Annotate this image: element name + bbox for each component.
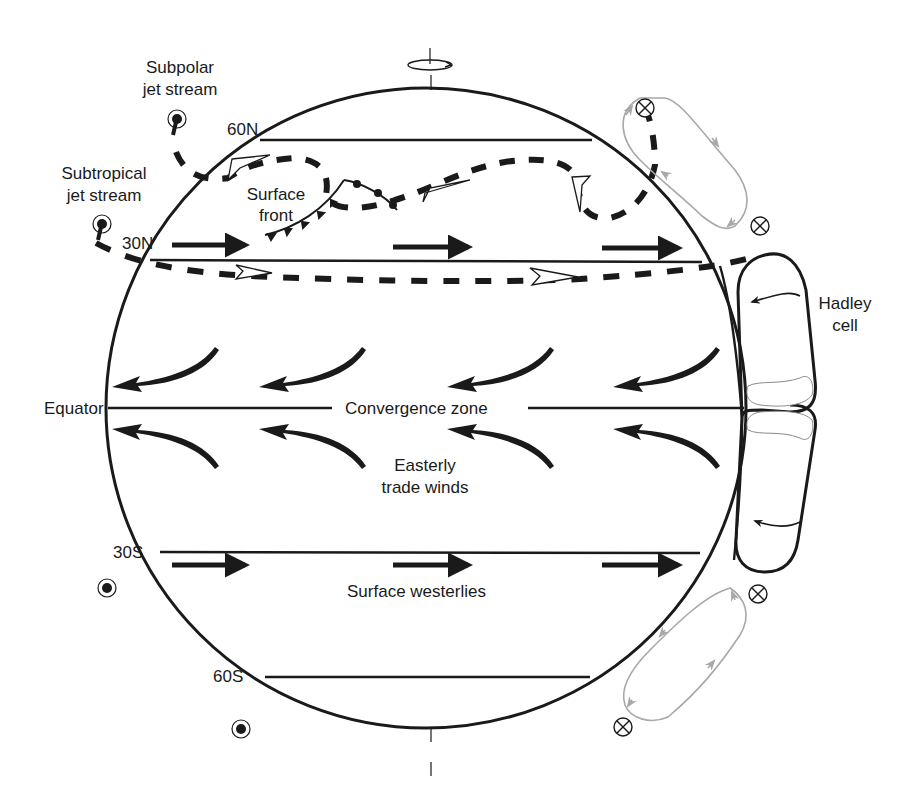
label-easterly-trade-winds-line2: trade winds: [365, 478, 485, 498]
into-page-icon-north-30: [751, 217, 769, 235]
ferrel-cell-north: [623, 98, 747, 228]
into-page-icon-south-60: [614, 718, 632, 736]
ferrel-cell-south: [624, 588, 747, 720]
label-surface-front-line2: front: [236, 206, 316, 226]
label-easterly-trade-winds-line1: Easterly: [370, 456, 480, 476]
label-hadley-cell-line2: cell: [810, 316, 880, 336]
label-latitude-30s: 30S: [113, 543, 143, 563]
latitude-30n: [150, 260, 702, 262]
label-subpolar-jet-line1: Subpolar: [140, 58, 220, 78]
label-subpolar-jet-line2: jet stream: [132, 80, 228, 100]
label-surface-front-line1: Surface: [236, 185, 316, 205]
latitude-30s: [160, 552, 700, 553]
label-subtropical-jet-line1: Subtropical: [48, 164, 160, 184]
into-page-icon-south-30: [749, 585, 767, 603]
jet-out-of-page-icon-subtropical: [93, 215, 111, 240]
label-latitude-60n: 60N: [227, 120, 258, 140]
label-equator: Equator: [44, 399, 104, 419]
trade-winds-north: [112, 347, 720, 392]
into-page-icon-north-top: [636, 99, 654, 117]
out-of-page-icon-60s: [232, 720, 250, 738]
label-surface-westerlies: Surface westerlies: [347, 582, 486, 602]
label-latitude-60s: 60S: [213, 667, 243, 687]
westerlies-north: [172, 245, 678, 248]
circulation-diagram: [0, 0, 922, 793]
label-subtropical-jet-line2: jet stream: [56, 186, 152, 206]
label-hadley-cell-line1: Hadley: [810, 294, 880, 314]
label-latitude-30n: 30N: [122, 234, 153, 254]
label-convergence-zone: Convergence zone: [345, 399, 488, 419]
jet-out-of-page-icon-subpolar: [168, 110, 186, 135]
out-of-page-icon-30s: [98, 579, 116, 597]
